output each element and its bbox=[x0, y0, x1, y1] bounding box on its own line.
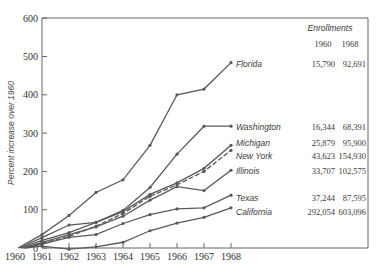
data-point bbox=[67, 248, 70, 251]
series-washington bbox=[19, 125, 232, 248]
enrollment-1960: 37,244 bbox=[312, 193, 336, 203]
enrollment-1960: 292,054 bbox=[307, 207, 335, 217]
y-tick-label: 600 bbox=[23, 13, 38, 24]
data-point bbox=[121, 222, 124, 225]
data-point bbox=[121, 178, 124, 181]
series-label: Washington bbox=[236, 122, 281, 132]
enrollments-title: Enrollments bbox=[308, 23, 354, 33]
line-chart: 0100200300400500600 19601961196219631964… bbox=[0, 0, 376, 273]
data-point bbox=[202, 206, 205, 209]
x-tick-label: 1962 bbox=[59, 251, 79, 262]
data-point bbox=[40, 244, 43, 247]
data-point bbox=[202, 216, 205, 219]
data-point bbox=[229, 144, 232, 147]
enrollment-1960: 15,790 bbox=[312, 59, 335, 69]
data-point bbox=[67, 236, 70, 239]
series-label: Michigan bbox=[236, 138, 270, 148]
data-point bbox=[175, 222, 178, 225]
data-point bbox=[148, 144, 151, 147]
data-point bbox=[175, 93, 178, 96]
series-label: New York bbox=[236, 151, 273, 161]
x-tick-label: 1966 bbox=[167, 251, 187, 262]
series-label: Texas bbox=[236, 193, 259, 203]
data-point bbox=[94, 221, 97, 224]
series-label: California bbox=[236, 207, 272, 217]
data-point bbox=[148, 229, 151, 232]
y-tick-label: 100 bbox=[23, 204, 38, 215]
y-tick-label: 400 bbox=[23, 89, 38, 100]
data-point bbox=[202, 167, 205, 170]
data-point bbox=[67, 214, 70, 217]
enrollment-1968: 87,595 bbox=[343, 193, 366, 203]
enrollment-1968: 92,691 bbox=[343, 59, 366, 69]
series-label: Illinois bbox=[236, 166, 260, 176]
data-point bbox=[121, 215, 124, 218]
data-point bbox=[40, 233, 43, 236]
series-labels: Florida15,79092,691Washington16,34468,39… bbox=[236, 59, 366, 217]
data-point bbox=[175, 207, 178, 210]
x-tick-label: 1960 bbox=[5, 251, 25, 262]
data-point bbox=[94, 233, 97, 236]
data-point bbox=[202, 170, 205, 173]
series-layer bbox=[18, 61, 233, 251]
x-tick-label: 1968 bbox=[221, 251, 241, 262]
enrollment-1968: 95,900 bbox=[343, 138, 366, 148]
data-point bbox=[229, 61, 232, 64]
y-axis: 0100200300400500600 bbox=[23, 13, 47, 254]
y-tick-label: 200 bbox=[23, 166, 38, 177]
column-1960: 1960 bbox=[315, 39, 332, 49]
enrollments-table: Enrollments 1960 1968 bbox=[308, 23, 359, 49]
data-point bbox=[148, 195, 151, 198]
enrollment-1968: 102,575 bbox=[338, 166, 366, 176]
data-point bbox=[229, 206, 232, 209]
data-point bbox=[202, 87, 205, 90]
data-point bbox=[67, 223, 70, 226]
y-tick-label: 500 bbox=[23, 51, 38, 62]
x-tick-label: 1964 bbox=[113, 251, 133, 262]
y-tick-label: 300 bbox=[23, 128, 38, 139]
data-point bbox=[229, 169, 232, 172]
data-point bbox=[148, 186, 151, 189]
column-1968: 1968 bbox=[342, 39, 359, 49]
x-tick-label: 1965 bbox=[140, 251, 160, 262]
x-tick-label: 1961 bbox=[32, 251, 52, 262]
x-tick-label: 1963 bbox=[86, 251, 106, 262]
enrollment-1968: 603,096 bbox=[338, 207, 366, 217]
enrollment-1968: 154,930 bbox=[338, 151, 366, 161]
y-axis-title: Percent increase over 1960 bbox=[6, 81, 16, 185]
series-florida bbox=[18, 61, 233, 248]
data-point bbox=[148, 213, 151, 216]
enrollment-1960: 33,707 bbox=[312, 166, 335, 176]
data-point bbox=[229, 194, 232, 197]
data-point bbox=[94, 191, 97, 194]
enrollment-1968: 68,391 bbox=[343, 122, 366, 132]
x-tick-label: 1967 bbox=[194, 251, 214, 262]
enrollment-1960: 43,623 bbox=[312, 151, 335, 161]
series-label: Florida bbox=[236, 59, 262, 69]
enrollment-1960: 16,344 bbox=[312, 122, 336, 132]
data-point bbox=[229, 125, 232, 128]
data-point bbox=[202, 189, 205, 192]
enrollment-1960: 25,879 bbox=[312, 138, 335, 148]
data-point bbox=[148, 199, 151, 202]
data-point bbox=[202, 125, 205, 128]
data-point bbox=[175, 153, 178, 156]
data-point bbox=[121, 241, 124, 244]
data-point bbox=[175, 185, 178, 188]
data-point bbox=[94, 245, 97, 248]
data-point bbox=[94, 225, 97, 228]
data-point bbox=[229, 149, 232, 152]
